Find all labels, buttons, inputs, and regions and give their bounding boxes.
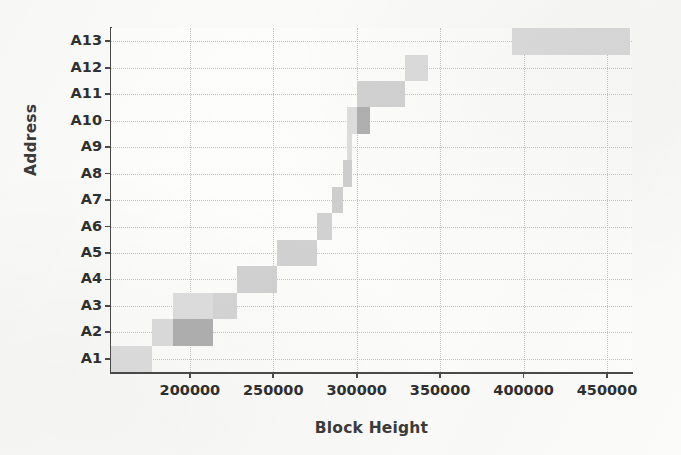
x-tick-label-400000: 400000 [479, 382, 569, 398]
y-tick-label-a7: A7 [56, 191, 102, 207]
y-tick-label-a3: A3 [56, 297, 102, 313]
heatmap-cell-a2 [152, 319, 174, 346]
y-tick-label-a4: A4 [56, 270, 102, 286]
heatmap-cell-a11 [357, 81, 405, 108]
x-tick-label-300000: 300000 [312, 382, 402, 398]
heatmap-cell-a5 [277, 240, 317, 267]
heatmap-cell-a12 [405, 55, 428, 82]
gridline-vertical [524, 28, 525, 372]
y-tick-label-a10: A10 [56, 112, 102, 128]
x-tick-label-250000: 250000 [228, 382, 318, 398]
y-tick-mark [105, 305, 111, 307]
y-tick-label-a5: A5 [56, 244, 102, 260]
y-axis-title: Address [22, 56, 40, 176]
gridline-vertical [273, 28, 274, 372]
y-tick-mark [105, 226, 111, 228]
gridline-vertical [357, 28, 358, 372]
y-tick-mark [105, 93, 111, 95]
x-tick-label-200000: 200000 [145, 382, 235, 398]
y-tick-mark [105, 173, 111, 175]
y-tick-label-a1: A1 [56, 350, 102, 366]
y-tick-label-a6: A6 [56, 218, 102, 234]
gridline-vertical [440, 28, 441, 372]
y-tick-mark [105, 199, 111, 201]
x-tick-mark [523, 372, 525, 378]
plot-area: A1A2A3A4A5A6A7A8A9A10A11A12A13 200000250… [111, 28, 632, 372]
heatmap-cell-a9 [347, 134, 352, 161]
heatmap-cell-a2 [173, 319, 213, 346]
x-tick-label-350000: 350000 [395, 382, 485, 398]
y-tick-mark [105, 331, 111, 333]
y-tick-label-a9: A9 [56, 138, 102, 154]
heatmap-figure: Address Block Height A1A2A3A4A5A6A7A8A9A… [0, 0, 681, 455]
heatmap-cell-a10 [347, 107, 357, 134]
x-axis-title: Block Height [111, 419, 632, 437]
y-tick-label-a11: A11 [56, 85, 102, 101]
x-tick-mark [272, 372, 274, 378]
y-tick-mark [105, 252, 111, 254]
heatmap-cell-a13 [512, 28, 630, 55]
y-tick-label-a12: A12 [56, 59, 102, 75]
x-tick-mark [189, 372, 191, 378]
y-tick-mark [105, 358, 111, 360]
x-tick-mark [356, 372, 358, 378]
y-tick-label-a13: A13 [56, 32, 102, 48]
heatmap-cell-a1 [111, 346, 152, 373]
x-tick-label-450000: 450000 [562, 382, 652, 398]
heatmap-cell-a7 [332, 187, 344, 214]
y-tick-mark [105, 279, 111, 281]
heatmap-cell-a6 [317, 213, 332, 240]
heatmap-cell-a3 [213, 293, 236, 320]
heatmap-cell-a4 [237, 266, 277, 293]
y-tick-mark [105, 146, 111, 148]
x-tick-mark [606, 372, 608, 378]
heatmap-cell-a10 [357, 107, 370, 134]
heatmap-cell-a8 [343, 160, 351, 187]
y-tick-mark [105, 40, 111, 42]
gridline-vertical [607, 28, 608, 372]
y-tick-mark [105, 67, 111, 69]
y-tick-mark [105, 120, 111, 122]
heatmap-cell-a3 [173, 293, 213, 320]
y-tick-label-a8: A8 [56, 165, 102, 181]
x-tick-mark [439, 372, 441, 378]
y-tick-label-a2: A2 [56, 323, 102, 339]
